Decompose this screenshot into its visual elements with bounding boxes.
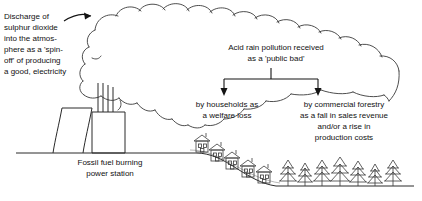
label-power-station: Fossil fuel burning power station: [37, 157, 183, 179]
tree-icon: [349, 161, 367, 186]
diagram-canvas: Discharge of sulphur dioxide into the at…: [0, 0, 422, 201]
label-forestry: by commercial forestry as a fall in sale…: [277, 99, 411, 143]
house-icon: [209, 142, 225, 161]
tree-icon: [297, 163, 313, 186]
house-icon: [240, 158, 256, 177]
trees-group: [279, 157, 402, 186]
arrow-to-forestry-icon: [315, 88, 322, 96]
label-households: by households as a welfare loss: [181, 99, 273, 121]
label-discharge: Discharge of sulphur dioxide into the at…: [4, 11, 84, 77]
house-icon: [194, 133, 210, 152]
distribution-bracket: [224, 68, 318, 90]
tree-icon: [384, 160, 402, 186]
house-icon: [224, 150, 240, 169]
tree-icon: [279, 160, 297, 186]
tree-icon: [313, 160, 331, 186]
house-icon: [256, 164, 272, 183]
tree-icon: [330, 157, 350, 186]
houses-group: [194, 133, 272, 183]
chimney-stacks-icon: [98, 83, 113, 112]
arrow-to-households-icon: [221, 88, 228, 96]
label-acid-rain: Acid rain pollution received as a 'publi…: [213, 42, 339, 64]
tree-icon: [367, 164, 383, 186]
power-station-icon: [53, 108, 125, 153]
